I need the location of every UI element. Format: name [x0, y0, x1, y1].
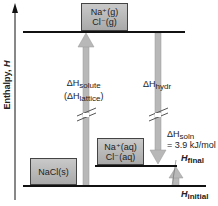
aqueous-ions-box: Na⁺(aq) Cl⁻(aq): [97, 138, 144, 165]
solute-delta: ΔH: [67, 78, 80, 88]
y-axis-label-var: H: [2, 61, 12, 68]
h-final-label: Hfinal: [181, 153, 204, 165]
solution-enthalpy-label: ΔHsoln = 3.9 kJ/mol: [167, 130, 216, 150]
axis-break-marks: [77, 108, 168, 121]
solid-level-line: [23, 185, 206, 187]
gas-ions-box: Na⁺(g) Cl⁻(g): [81, 3, 128, 31]
lattice-sub: lattice: [80, 94, 101, 103]
solid-nacl-box: NaCl(s): [30, 158, 77, 185]
y-axis-arrowhead-icon: [12, 3, 18, 13]
solution-value: = 3.9 kJ/mol: [167, 141, 216, 150]
h-initial-sub: initial: [188, 192, 209, 201]
gas-ions-cl-label: Cl⁻(g): [82, 17, 127, 27]
aqueous-ions-na-label: Na⁺(aq): [98, 142, 143, 152]
y-axis-label-text: Enthalpy,: [2, 67, 12, 109]
hydration-enthalpy-label: ΔHhydr: [143, 79, 171, 92]
h-final-sub: final: [188, 156, 204, 165]
lattice-delta: (ΔH: [64, 91, 80, 101]
hydration-delta: ΔH: [143, 79, 156, 89]
aqueous-ions-cl-label: Cl⁻(aq): [98, 152, 143, 162]
h-initial-label: Hinitial: [181, 189, 208, 201]
hydration-sub: hydr: [156, 82, 172, 91]
gas-ions-level-line: [23, 31, 185, 33]
y-axis-label: Enthalpy, H: [2, 50, 12, 120]
aqueous-level-line: [95, 165, 177, 167]
solute-enthalpy-label: ΔHsolute (ΔHlattice): [64, 78, 103, 104]
solution-delta: ΔH: [167, 129, 180, 139]
gas-ions-na-label: Na⁺(g): [82, 7, 127, 17]
solid-nacl-label: NaCl(s): [31, 167, 76, 177]
lattice-close: ): [100, 91, 103, 101]
solute-sub: solute: [79, 81, 100, 90]
hydration-down-arrow-icon: [150, 33, 166, 164]
